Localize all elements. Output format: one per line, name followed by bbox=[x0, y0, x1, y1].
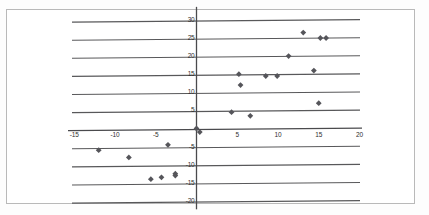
gridline-y--5 bbox=[72, 146, 360, 149]
data-point bbox=[159, 174, 165, 180]
y-tick-label: -10 bbox=[186, 161, 195, 168]
y-tick-label: 5 bbox=[191, 107, 194, 114]
gridline-y-20 bbox=[72, 56, 360, 59]
data-point bbox=[286, 53, 292, 59]
data-point bbox=[317, 35, 323, 41]
x-tick-label: -5 bbox=[153, 132, 158, 139]
scatter-plot-figure: -15-10-55101520 30252015105-5-10-15-20 bbox=[0, 0, 429, 215]
y-tick-label: -15 bbox=[186, 180, 195, 187]
axis-lines bbox=[68, 7, 362, 209]
data-point bbox=[165, 142, 171, 148]
x-tick-label: 5 bbox=[236, 132, 239, 139]
data-point bbox=[274, 73, 280, 79]
data-point bbox=[311, 68, 317, 74]
x-tick-label: 20 bbox=[356, 132, 363, 139]
x-tick-label: 10 bbox=[275, 132, 282, 139]
gridline-y--15 bbox=[72, 183, 360, 186]
data-point bbox=[316, 100, 322, 106]
data-point bbox=[300, 30, 306, 36]
data-point bbox=[229, 109, 235, 115]
gridline-y-30 bbox=[72, 20, 360, 23]
gridlines bbox=[72, 20, 360, 204]
gridline-y--10 bbox=[72, 164, 360, 167]
data-point bbox=[236, 71, 242, 77]
y-tick-label: -20 bbox=[186, 198, 195, 205]
x-tick-label: -10 bbox=[111, 132, 120, 139]
gridline-y-25 bbox=[72, 38, 360, 41]
y-tick-label: 20 bbox=[188, 53, 195, 60]
data-point bbox=[263, 73, 269, 79]
y-tick-label: 25 bbox=[188, 35, 195, 42]
data-point bbox=[323, 35, 329, 41]
data-point bbox=[148, 176, 154, 182]
chart-canvas bbox=[0, 0, 429, 215]
data-point-markers bbox=[96, 30, 329, 182]
x-tick-label: -15 bbox=[70, 132, 79, 139]
y-tick-label: -5 bbox=[189, 143, 194, 150]
y-tick-label: 30 bbox=[188, 17, 195, 24]
data-point bbox=[247, 113, 253, 119]
data-point bbox=[126, 155, 132, 161]
gridline-y--20 bbox=[72, 201, 360, 204]
data-point bbox=[238, 82, 244, 88]
y-tick-label: 15 bbox=[188, 71, 195, 78]
gridline-y-5 bbox=[72, 110, 360, 113]
gridline-y-15 bbox=[72, 74, 360, 77]
plot-area: -15-10-55101520 30252015105-5-10-15-20 bbox=[0, 0, 429, 215]
x-tick-label: 15 bbox=[315, 132, 322, 139]
y-tick-label: 10 bbox=[188, 89, 195, 96]
gridline-y-10 bbox=[72, 92, 360, 95]
